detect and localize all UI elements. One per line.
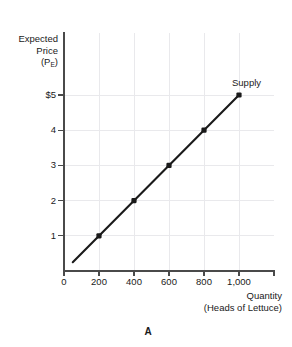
supply-series-label: Supply [232, 77, 261, 88]
supply-data-point [236, 92, 241, 97]
x-axis-title-line-2: (Heads of Lettuce) [92, 302, 282, 314]
supply-data-point [201, 128, 206, 133]
x-axis-title-line-1: Quantity [92, 290, 282, 302]
panel-caption: A [0, 326, 292, 337]
x-axis-title: Quantity (Heads of Lettuce) [92, 290, 282, 313]
supply-data-point [96, 233, 101, 238]
supply-data-point [131, 198, 136, 203]
supply-curve-figure: Expected Price (PE) 1234$5 0200400600800… [0, 0, 292, 347]
supply-data-point [166, 163, 171, 168]
